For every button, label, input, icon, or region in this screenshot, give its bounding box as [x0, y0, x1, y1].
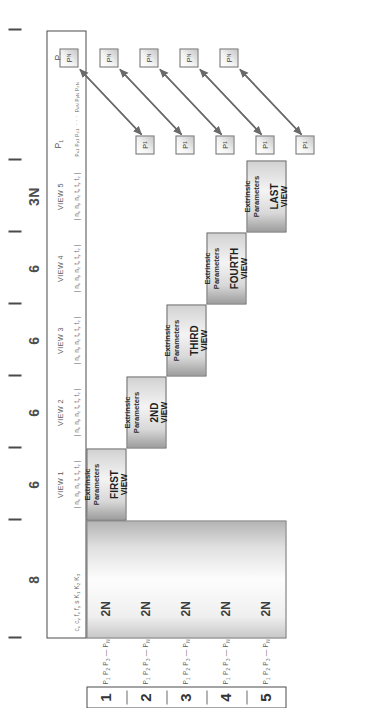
point-range-arrow-reverse — [160, 69, 222, 134]
row-group-number-3: 3 — [176, 686, 193, 708]
row-group-number-1: 1 — [96, 686, 113, 708]
point-range-arrow-reverse — [80, 69, 142, 134]
row-group-number-2: 2 — [136, 686, 153, 708]
point-square-last-3: PN — [139, 48, 158, 67]
point-square-first-2: P1 — [175, 135, 194, 154]
row-group-separator-3 — [206, 690, 207, 704]
point-square-last-4: PN — [179, 48, 198, 67]
point-square-last-5: PN — [219, 48, 238, 67]
point-square-first-3: P1 — [215, 135, 234, 154]
row-group-number-4: 4 — [216, 686, 233, 708]
row-group-separator-1 — [126, 690, 127, 704]
row-group-separator-4 — [246, 690, 247, 704]
point-square-last-2: PN — [99, 48, 118, 67]
point-range-arrow-reverse — [200, 69, 262, 134]
point-square-last-1: PN — [59, 48, 78, 67]
point-range-arrow-reverse — [240, 69, 302, 134]
point-square-first-1: P1 — [135, 135, 154, 154]
point-square-first-4: P1 — [255, 135, 274, 154]
row-group-number-5: 5 — [256, 686, 273, 708]
row-group-separator-2 — [166, 690, 167, 704]
point-square-first-5: P1 — [295, 135, 314, 154]
point-range-arrow-reverse — [120, 69, 182, 134]
